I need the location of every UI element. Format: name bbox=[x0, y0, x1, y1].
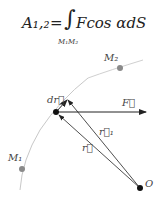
force-diagram bbox=[0, 0, 160, 203]
point-on-path bbox=[53, 109, 59, 115]
label-m2: M₂ bbox=[104, 52, 118, 63]
label-m1: M₁ bbox=[8, 152, 22, 163]
label-r1: r⃗₁ bbox=[99, 126, 114, 137]
point-m1 bbox=[19, 166, 25, 172]
label-f: F⃗ bbox=[122, 97, 135, 108]
r1-vector bbox=[68, 100, 140, 188]
label-r: r⃗ bbox=[82, 142, 93, 153]
label-o: O bbox=[145, 178, 153, 189]
label-dr: dr⃗ bbox=[47, 94, 64, 105]
origin-point bbox=[137, 185, 143, 191]
point-m2 bbox=[117, 65, 123, 71]
